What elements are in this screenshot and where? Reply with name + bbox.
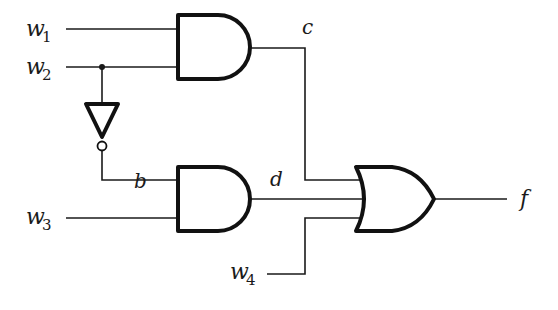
output-label-f: f [518,186,532,211]
not-gate [86,104,118,151]
inverter-triangle [86,104,118,137]
svg-text:1: 1 [42,28,52,46]
logic-circuit-diagram: w 1 w 2 w 3 w 4 c b d f [0,0,558,310]
input-label-w3: w 3 [26,204,52,234]
and-gate-1 [178,15,250,79]
input-label-w2: w 2 [26,54,52,84]
svg-text:3: 3 [42,216,52,234]
svg-text:2: 2 [42,66,52,84]
or-gate [356,167,434,231]
and-gate-2 [178,167,250,231]
signal-label-c: c [302,15,313,39]
junction-dot [99,64,105,70]
wire-c [250,48,362,180]
inverter-bubble [98,142,107,151]
wire-w4 [267,218,362,274]
input-label-w1: w 1 [26,16,52,46]
svg-text:4: 4 [246,271,256,289]
signal-label-b: b [134,169,147,193]
signal-label-d: d [270,167,283,191]
input-label-w4: w 4 [230,259,256,289]
